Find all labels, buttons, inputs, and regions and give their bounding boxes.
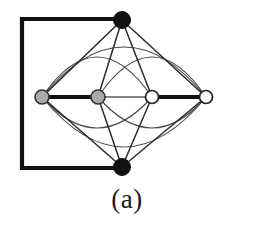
spoke-edge-group bbox=[42, 20, 206, 167]
edge-bottom-n4 bbox=[122, 97, 206, 167]
edge-top-n4 bbox=[122, 20, 206, 97]
edge-arc-n1-n4-upper bbox=[42, 47, 206, 97]
row-vertex-2 bbox=[91, 90, 105, 104]
figure-caption: (a) bbox=[0, 182, 254, 216]
edge-bottom-n3 bbox=[122, 97, 152, 167]
vertex-group bbox=[35, 12, 213, 176]
top-vertex bbox=[114, 12, 131, 29]
figure-container: (a) bbox=[0, 0, 254, 225]
row-vertex-1 bbox=[35, 90, 49, 104]
row-vertex-3 bbox=[146, 91, 159, 104]
edge-arc-n1-n4-lower bbox=[42, 97, 206, 147]
edge-top-n3 bbox=[122, 20, 152, 97]
row-vertex-4 bbox=[200, 91, 213, 104]
bottom-vertex bbox=[114, 159, 131, 176]
